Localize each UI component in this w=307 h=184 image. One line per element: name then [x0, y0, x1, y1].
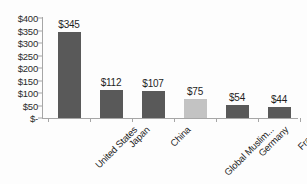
x-axis-tick-mark — [174, 118, 175, 122]
bar-group: $112 — [90, 18, 132, 118]
x-axis-tick-mark — [48, 118, 49, 122]
x-axis-tick-mark — [216, 118, 217, 122]
bar-group: $44 — [258, 18, 300, 118]
bar-value-label: $112 — [101, 77, 122, 88]
bar[interactable] — [184, 99, 207, 118]
y-axis-tick-label: $- — [30, 113, 38, 124]
y-axis-tick-label: $350 — [18, 25, 38, 36]
bar-group: $75 — [174, 18, 216, 118]
x-axis-category-label-text: France — [295, 124, 307, 152]
y-axis-tick-label: $400 — [18, 13, 38, 24]
bar-value-label: $107 — [142, 78, 163, 89]
x-axis-category-label: China — [168, 124, 193, 149]
y-axis-tick-label: $300 — [18, 38, 38, 49]
x-axis-tick-mark — [258, 118, 259, 122]
y-axis-tick-label: $250 — [18, 50, 38, 61]
bar[interactable] — [58, 32, 81, 118]
bar[interactable] — [268, 107, 291, 118]
x-axis-line — [42, 118, 298, 119]
y-axis-tick-labels: $400$350$300$250$200$150$100$50$- — [0, 0, 38, 184]
plot-area: $345$112$107$75$54$44 — [42, 18, 298, 118]
x-axis-tick-mark — [90, 118, 91, 122]
y-axis-tick-label: $200 — [18, 63, 38, 74]
bar-value-label: $44 — [271, 94, 287, 105]
bar-value-label: $345 — [58, 19, 79, 30]
bar-value-label: $54 — [229, 92, 245, 103]
y-axis-tick-label: $50 — [23, 100, 38, 111]
x-axis-category-label-text: China — [168, 124, 193, 149]
y-axis-tick-label: $100 — [18, 88, 38, 99]
bar[interactable] — [226, 105, 249, 119]
bar-group: $345 — [48, 18, 90, 118]
x-axis-tick-mark — [300, 118, 301, 122]
bar-group: $107 — [132, 18, 174, 118]
bar[interactable] — [142, 91, 165, 118]
y-axis-tick-label: $150 — [18, 75, 38, 86]
bar-chart: $400$350$300$250$200$150$100$50$- $345$1… — [0, 0, 307, 184]
bar-value-label: $75 — [187, 86, 203, 97]
x-axis-tick-mark — [132, 118, 133, 122]
bar[interactable] — [100, 90, 123, 118]
x-axis-category-label: France — [295, 124, 307, 152]
bar-group: $54 — [216, 18, 258, 118]
